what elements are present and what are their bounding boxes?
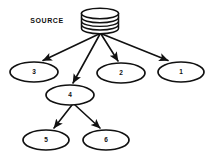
edge-source-to-4: [73, 34, 100, 83]
edge-source-to-2: [101, 34, 118, 61]
edge-group-node4: [54, 105, 100, 128]
edge-4-to-5: [54, 105, 72, 128]
node-3-label: 3: [32, 68, 36, 75]
node-4-label: 4: [68, 91, 72, 98]
node-5[interactable]: 5: [23, 130, 69, 150]
node-2[interactable]: 2: [97, 63, 145, 83]
node-2-label: 2: [119, 69, 123, 76]
database-cylinder-icon: [82, 8, 119, 33]
diagram-canvas: SOURCE 3 2 1 4 5 6: [0, 0, 206, 159]
node-3[interactable]: 3: [10, 62, 58, 82]
node-1[interactable]: 1: [158, 62, 204, 82]
source-label: SOURCE: [30, 17, 64, 24]
node-1-label: 1: [179, 68, 183, 75]
edge-source-to-3: [43, 34, 99, 61]
node-5-label: 5: [44, 136, 48, 143]
node-6[interactable]: 6: [83, 130, 129, 150]
tree-diagram: SOURCE 3 2 1 4 5 6: [0, 0, 206, 159]
edge-source-to-1: [102, 34, 168, 61]
edge-4-to-6: [75, 105, 100, 128]
node-4[interactable]: 4: [46, 85, 94, 105]
node-6-label: 6: [104, 136, 108, 143]
